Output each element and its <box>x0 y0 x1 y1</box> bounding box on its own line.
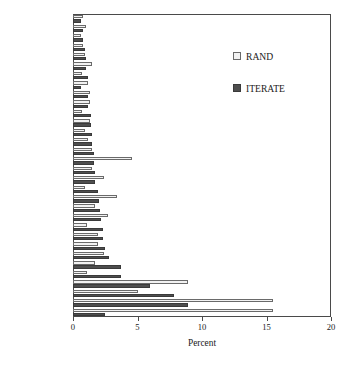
bar-row <box>73 232 331 242</box>
x-axis-tick-label: 0 <box>53 322 93 332</box>
x-axis-tick <box>73 317 74 321</box>
bar-rand <box>73 53 85 56</box>
bar-iterate <box>73 133 92 136</box>
x-axis-tick <box>138 317 139 321</box>
bar-row <box>73 147 331 157</box>
bar-iterate <box>73 67 86 70</box>
bar-iterate <box>73 265 121 268</box>
legend-label-iterate: ITERATE <box>246 83 285 94</box>
x-axis-tick-label: 10 <box>182 322 222 332</box>
bar-iterate <box>73 161 94 164</box>
bar-iterate <box>73 247 105 250</box>
bar-iterate <box>73 275 121 278</box>
bar-iterate <box>73 29 83 32</box>
bar-rand <box>73 34 81 37</box>
bar-rand <box>73 91 90 94</box>
bar-rand <box>73 167 92 170</box>
bar-rand <box>73 25 86 28</box>
bar-iterate <box>73 76 88 79</box>
legend-swatch-rand <box>233 52 241 60</box>
bar-iterate <box>73 209 100 212</box>
bar-iterate <box>73 180 95 183</box>
bar-row <box>73 14 331 24</box>
bar-rand <box>73 157 132 160</box>
bar-iterate <box>73 123 91 126</box>
x-axis-tick-label: 5 <box>118 322 158 332</box>
bar-iterate <box>73 171 95 174</box>
x-axis-tick <box>331 317 332 321</box>
bar-rand <box>73 261 95 264</box>
bar-iterate <box>73 57 86 60</box>
bar-rand <box>73 44 83 47</box>
bar-rand <box>73 176 104 179</box>
legend-swatch-iterate <box>233 84 241 92</box>
x-axis-tick <box>202 317 203 321</box>
bar-row <box>73 156 331 166</box>
bar-row <box>73 23 331 33</box>
bar-rand <box>73 15 83 18</box>
bar-rand <box>73 129 85 132</box>
bar-row <box>73 270 331 280</box>
bar-row <box>73 308 331 318</box>
bar-row <box>73 109 331 119</box>
bar-rand <box>73 110 82 113</box>
bar-row <box>73 184 331 194</box>
bar-row <box>73 80 331 90</box>
x-axis-tick-label: 15 <box>247 322 287 332</box>
bar-iterate <box>73 142 92 145</box>
bar-iterate <box>73 218 101 221</box>
bar-rand <box>73 186 85 189</box>
bar-iterate <box>73 313 105 316</box>
x-axis-tick-label: 20 <box>311 322 351 332</box>
bar-rand <box>73 148 92 151</box>
bar-row <box>73 42 331 52</box>
bar-rand <box>73 204 95 207</box>
bar-iterate <box>73 228 103 231</box>
bar-chart-figure: PeruSpainJordanNigeriaVenezuelaItalyAngo… <box>0 0 356 365</box>
bar-rand <box>73 309 273 312</box>
bar-iterate <box>73 38 83 41</box>
bar-row <box>73 251 331 261</box>
bar-row <box>73 99 331 109</box>
bar-iterate <box>73 303 188 306</box>
bar-row <box>73 33 331 43</box>
bar-rand <box>73 119 90 122</box>
bar-iterate <box>73 284 150 287</box>
bar-rand <box>73 72 82 75</box>
bar-row <box>73 279 331 289</box>
bar-row <box>73 213 331 223</box>
bar-rand <box>73 138 88 141</box>
bar-rand <box>73 271 87 274</box>
bar-rand <box>73 290 138 293</box>
bar-iterate <box>73 95 88 98</box>
bar-iterate <box>73 199 99 202</box>
bar-iterate <box>73 19 81 22</box>
bar-rand <box>73 223 87 226</box>
bar-iterate <box>73 294 174 297</box>
bar-rand <box>73 195 117 198</box>
bar-row <box>73 166 331 176</box>
x-axis-label: Percent <box>73 338 331 348</box>
bar-row <box>73 241 331 251</box>
bar-row <box>73 71 331 81</box>
bar-rand <box>73 233 98 236</box>
bar-row <box>73 260 331 270</box>
bar-row <box>73 222 331 232</box>
bar-rand <box>73 81 88 84</box>
bar-rand <box>73 252 104 255</box>
bar-row <box>73 175 331 185</box>
bar-row <box>73 52 331 62</box>
bar-row <box>73 194 331 204</box>
bar-rand <box>73 100 90 103</box>
bar-iterate <box>73 237 103 240</box>
x-axis-tick <box>267 317 268 321</box>
bar-row <box>73 137 331 147</box>
bar-iterate <box>73 48 85 51</box>
bar-row <box>73 298 331 308</box>
bar-iterate <box>73 190 98 193</box>
bar-rand <box>73 214 108 217</box>
bar-rand <box>73 242 98 245</box>
bar-iterate <box>73 114 91 117</box>
bar-row <box>73 128 331 138</box>
bar-iterate <box>73 152 94 155</box>
